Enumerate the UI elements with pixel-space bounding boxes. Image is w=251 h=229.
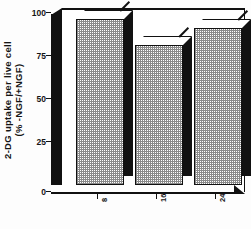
bar-16h-top [135,36,192,45]
plot-floor-face [51,185,234,192]
y-tick-label-25: 25 [24,138,46,146]
y-axis-tick-labels: 100 75 50 25 0 [22,0,46,229]
y-axis-wall-top-bevel [51,8,62,15]
bar-24h-top [194,19,251,28]
y-tick-label-0: 0 [24,188,46,196]
bar-8h-top [76,10,133,19]
bar-24h-front [194,28,242,186]
bar-chart-figure: 2-DG uptake per live cell (% -NGF/+NGF) … [0,0,251,229]
bar-16h-side [183,36,192,176]
y-axis-wall [51,14,62,192]
plot-floor-bevel [234,185,245,194]
x-tick-label-24: 24 [218,194,227,202]
plot-floor [51,185,245,194]
y-tick-label-50: 50 [24,95,46,103]
bar-24h-side [242,19,251,177]
x-tick-mark-8 [97,194,98,199]
x-tick-label-16: 16 [159,194,168,202]
y-tick-label-75: 75 [24,52,46,60]
x-tick-label-8: 8 [100,198,109,202]
bar-8h-front [76,19,124,185]
plot-area [51,8,245,194]
bar-16h [135,45,183,185]
bar-group [62,8,245,185]
x-tick-mark-24 [215,194,216,199]
figure-caption [0,221,251,229]
bar-8h-side [124,10,133,176]
y-axis-title-line1: 2-DG uptake per live cell [2,41,13,159]
bar-24h [194,28,242,186]
bar-8h [76,19,124,185]
bar-16h-front [135,45,183,185]
x-tick-mark-16 [156,194,157,199]
y-tick-label-100: 100 [24,9,46,17]
